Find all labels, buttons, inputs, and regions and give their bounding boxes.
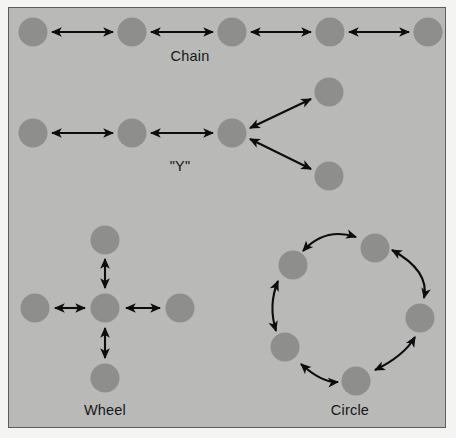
node — [118, 119, 147, 148]
node — [218, 119, 247, 148]
node — [218, 18, 247, 47]
label-chain: Chain — [0, 48, 380, 64]
node — [361, 234, 390, 263]
label-circle: Circle — [290, 402, 410, 418]
network-chain — [19, 18, 443, 47]
circle-nodes — [271, 234, 435, 396]
node — [91, 294, 120, 323]
network-wheel — [21, 226, 195, 393]
node — [271, 333, 300, 362]
label-y: "Y" — [0, 158, 360, 174]
link-circle-3 — [301, 364, 338, 382]
node — [315, 78, 344, 107]
node — [19, 119, 48, 148]
link-y-branch-upper — [250, 99, 311, 128]
link-circle-4 — [375, 337, 415, 370]
wheel-nodes — [21, 226, 195, 393]
node — [118, 18, 147, 47]
figure-canvas: Chain "Y" Wheel Circle — [0, 0, 456, 438]
node — [21, 294, 50, 323]
node — [316, 18, 345, 47]
node — [19, 18, 48, 47]
node — [406, 304, 435, 333]
node — [91, 364, 120, 393]
node — [279, 251, 308, 280]
link-circle-1 — [303, 234, 356, 251]
node — [414, 18, 443, 47]
label-wheel: Wheel — [45, 402, 165, 418]
link-circle-5 — [392, 250, 425, 298]
node — [166, 294, 195, 323]
network-circle — [271, 234, 435, 396]
node — [91, 226, 120, 255]
link-circle-2 — [272, 281, 278, 331]
network-diagram-svg — [0, 0, 456, 438]
node — [342, 367, 371, 396]
